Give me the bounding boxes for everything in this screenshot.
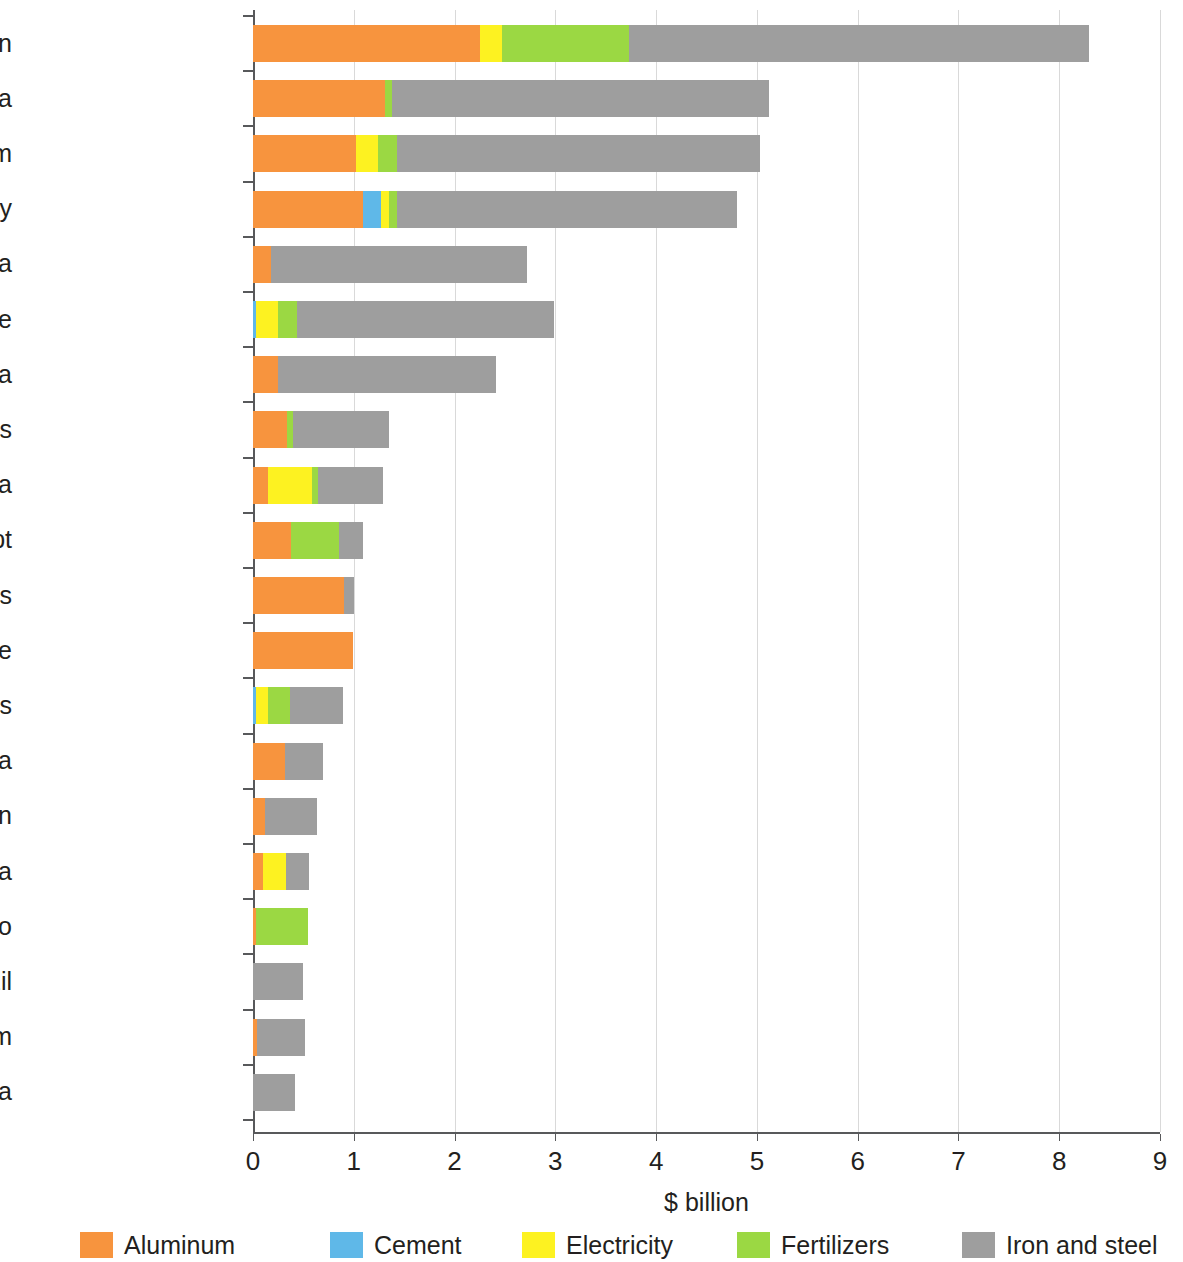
bar-segment-fertilizers (256, 908, 308, 945)
x-tick (1059, 1134, 1060, 1141)
bar-segment-iron-and-steel (293, 411, 389, 448)
y-tick (243, 898, 253, 900)
bar-segment-aluminum (253, 798, 265, 835)
bar-segment-aluminum (253, 467, 268, 504)
y-tick (243, 677, 253, 679)
legend-item-electricity[interactable]: Electricity (522, 1228, 673, 1262)
legend-label: Cement (374, 1231, 462, 1260)
x-tick (858, 1134, 859, 1141)
y-tick (243, 291, 253, 293)
bar-row (253, 743, 323, 780)
x-tick-label: 7 (951, 1146, 965, 1177)
y-tick (243, 1119, 253, 1121)
gridline (555, 10, 556, 1132)
bar-row (253, 25, 1089, 62)
bar-row (253, 1019, 305, 1056)
bar-segment-fertilizers (378, 135, 397, 172)
gridline (354, 10, 355, 1132)
bar-row (253, 522, 363, 559)
legend-label: Electricity (566, 1231, 673, 1260)
bar-row (253, 191, 737, 228)
y-tick (243, 1009, 253, 1011)
x-tick-label: 3 (548, 1146, 562, 1177)
x-tick-label: 0 (246, 1146, 260, 1177)
legend-item-cement[interactable]: Cement (330, 1228, 462, 1262)
bar-segment-electricity (268, 467, 312, 504)
bar-segment-electricity (256, 687, 268, 724)
legend-swatch-icon (737, 1232, 770, 1258)
legend-label: Iron and steel (1006, 1231, 1158, 1260)
bar-segment-electricity (356, 135, 378, 172)
bar-segment-iron-and-steel (629, 25, 1090, 62)
bar-row (253, 687, 343, 724)
bar-segment-aluminum (253, 522, 291, 559)
bar-segment-aluminum (253, 246, 271, 283)
category-label: Egypt (0, 527, 12, 552)
legend-item-iron-and-steel[interactable]: Iron and steel (962, 1228, 1158, 1262)
bar-segment-fertilizers (268, 687, 290, 724)
category-label: Belarus (0, 693, 12, 718)
bar-row (253, 135, 760, 172)
y-tick (243, 843, 253, 845)
bar-segment-electricity (381, 191, 389, 228)
x-tick (656, 1134, 657, 1141)
bar-segment-iron-and-steel (397, 135, 760, 172)
gridline (455, 10, 456, 1132)
y-tick (243, 181, 253, 183)
legend-swatch-icon (80, 1232, 113, 1258)
x-tick-label: 8 (1052, 1146, 1066, 1177)
y-tick (243, 125, 253, 127)
gridline (1160, 10, 1161, 1132)
category-label: Mozambique (0, 638, 12, 663)
legend-swatch-icon (330, 1232, 363, 1258)
legend: AluminumCementElectricityFertilizersIron… (0, 1228, 1183, 1262)
bar-segment-iron-and-steel (253, 1074, 295, 1111)
y-tick (243, 788, 253, 790)
gridline (858, 10, 859, 1132)
x-tick-label: 1 (347, 1146, 361, 1177)
y-tick (243, 346, 253, 348)
bar-row (253, 80, 769, 117)
bar-segment-iron-and-steel (397, 191, 737, 228)
bar-segment-iron-and-steel (290, 687, 342, 724)
y-tick (243, 236, 253, 238)
x-tick-label: 9 (1153, 1146, 1167, 1177)
category-label: Bosnia Herzegovina (0, 859, 12, 884)
y-tick (243, 953, 253, 955)
y-tick (243, 70, 253, 72)
x-tick-label: 5 (750, 1146, 764, 1177)
category-label: Ukraine (0, 307, 12, 332)
gridline (958, 10, 959, 1132)
bar-segment-iron-and-steel (392, 80, 769, 117)
bar-segment-aluminum (253, 191, 363, 228)
x-tick (555, 1134, 556, 1141)
plot-area: 0123456789 $ billion (253, 10, 1160, 1132)
bar-segment-iron-and-steel (297, 301, 554, 338)
bar-row (253, 356, 496, 393)
legend-item-fertilizers[interactable]: Fertilizers (737, 1228, 889, 1262)
bar-segment-aluminum (253, 743, 285, 780)
category-label: Viet Nam (0, 1024, 12, 1049)
legend-label: Aluminum (124, 1231, 235, 1260)
bar-segment-aluminum (253, 632, 353, 669)
x-axis-title: $ billion (253, 1188, 1160, 1217)
bar-segment-aluminum (253, 853, 263, 890)
x-tick (958, 1134, 959, 1141)
bar-segment-fertilizers (502, 25, 629, 62)
y-tick (243, 15, 253, 17)
legend-label: Fertilizers (781, 1231, 889, 1260)
bar-row (253, 963, 303, 1000)
bar-row (253, 411, 389, 448)
bar-segment-aluminum (253, 25, 480, 62)
bar-segment-iron-and-steel (286, 853, 309, 890)
x-axis-line (253, 1132, 1160, 1134)
bar-segment-electricity (480, 25, 502, 62)
bar-row (253, 1074, 295, 1111)
bar-row (253, 246, 527, 283)
legend-item-aluminum[interactable]: Aluminum (80, 1228, 235, 1262)
bar-segment-iron-and-steel (339, 522, 363, 559)
category-label: Republic of Korea (0, 251, 12, 276)
bar-segment-aluminum (253, 577, 344, 614)
bar-segment-fertilizers (291, 522, 338, 559)
bar-segment-iron-and-steel (257, 1019, 305, 1056)
